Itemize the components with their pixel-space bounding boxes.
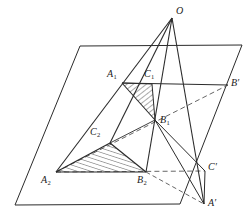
label-A-prime: A′ (208, 198, 216, 208)
label-O: O (176, 6, 183, 16)
label-A1: A1 (107, 69, 116, 79)
label-B2: B2 (137, 175, 146, 185)
edge-C2-B1 (110, 120, 155, 143)
edge-Cp-Ap (204, 171, 205, 204)
label-A2: A2 (41, 175, 50, 185)
figure-canvas (0, 0, 251, 219)
geometry-figure: O A1 C1 B1 C2 A2 B2 B′ C′ A′ (0, 0, 251, 219)
label-B-prime: B′ (231, 78, 239, 88)
label-B1: B1 (160, 115, 169, 125)
label-C1: C1 (144, 69, 154, 79)
label-C2: C2 (90, 127, 100, 137)
label-C-prime: C′ (208, 162, 217, 172)
edge-B2-Ap-dashed (146, 172, 204, 204)
